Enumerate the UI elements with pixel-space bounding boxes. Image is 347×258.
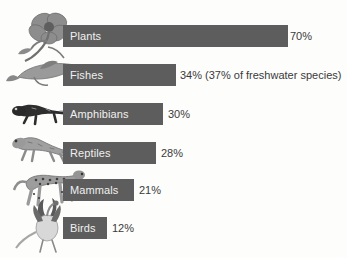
bar-value-reptiles: 28%	[161, 142, 183, 164]
bar-value-fishes: 34% (37% of freshwater species)	[180, 64, 341, 86]
bar-value-amphibians: 30%	[168, 103, 190, 125]
bar-label-reptiles: Reptiles	[70, 142, 111, 164]
chart-row-fishes: Fishes 34% (37% of freshwater species)	[0, 55, 347, 95]
species-threat-bar-chart: Plants 70% Fishes 34% (37% of freshwater…	[0, 0, 347, 258]
bar-amphibians: Amphibians	[63, 103, 163, 125]
bar-label-fishes: Fishes	[70, 64, 103, 86]
bar-label-amphibians: Amphibians	[70, 103, 128, 125]
bar-value-birds: 12%	[112, 217, 134, 239]
bar-birds: Birds	[63, 217, 107, 239]
bar-fishes: Fishes	[63, 64, 176, 86]
chart-row-amphibians: Amphibians 30%	[0, 94, 347, 134]
bar-value-plants: 70%	[290, 25, 312, 47]
chart-row-birds: Birds 12%	[0, 208, 347, 248]
chart-row-plants: Plants 70%	[0, 16, 347, 56]
bar-label-birds: Birds	[70, 217, 96, 239]
bar-reptiles: Reptiles	[63, 142, 156, 164]
bar-value-mammals: 21%	[139, 179, 161, 201]
bar-label-plants: Plants	[70, 25, 101, 47]
bar-plants: Plants	[63, 25, 288, 47]
